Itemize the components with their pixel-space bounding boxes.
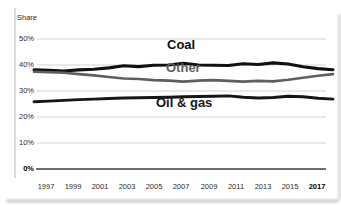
other-series-label: Other [166,61,201,75]
coal-series-label: Coal [167,38,195,52]
x-tick-1999: 1999 [59,182,87,191]
x-tick-2007: 2007 [167,182,195,191]
x-tick-2013: 2013 [249,182,277,191]
image-bottom-edge-shadow [6,199,339,203]
x-tick-2001: 2001 [86,182,114,191]
x-tick-2005: 2005 [140,182,168,191]
x-tick-2009: 2009 [195,182,223,191]
x-tick-2017: 2017 [303,182,331,191]
x-tick-2011: 2011 [222,182,250,191]
x-tick-1997: 1997 [32,182,60,191]
x-tick-2015: 2015 [276,182,304,191]
oil-gas-series-label: Oil & gas [156,96,212,110]
fuel-share-line-chart: Share 50% 40% 30% 20% 10% 0% Coal Other … [0,0,341,205]
x-tick-2003: 2003 [113,182,141,191]
